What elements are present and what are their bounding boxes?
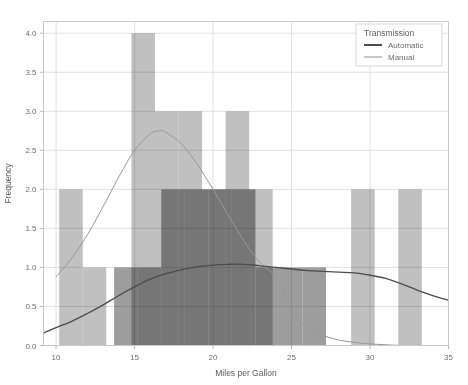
y-tick-label: 3.5 bbox=[25, 68, 37, 77]
y-tick-label: 4.0 bbox=[25, 29, 37, 38]
x-axis-title: Miles per Gallon bbox=[215, 368, 277, 378]
x-tick-label: 30 bbox=[366, 353, 375, 362]
histogram-bar bbox=[351, 189, 375, 345]
y-tick-label: 1.5 bbox=[25, 224, 37, 233]
y-tick-label: 0.5 bbox=[25, 302, 37, 311]
histogram-bar bbox=[208, 189, 232, 345]
x-tick-label: 15 bbox=[130, 353, 139, 362]
y-tick-label: 1.0 bbox=[25, 263, 37, 272]
x-tick-label: 20 bbox=[209, 353, 218, 362]
histogram-bar bbox=[83, 267, 107, 345]
histogram-bar bbox=[232, 189, 256, 345]
y-tick-label: 2.5 bbox=[25, 146, 37, 155]
y-tick-label: 3.0 bbox=[25, 107, 37, 116]
histogram-bar bbox=[303, 267, 327, 345]
histogram-bar bbox=[114, 267, 138, 345]
y-axis-title: Frequency bbox=[3, 163, 13, 204]
histogram-bar bbox=[279, 267, 303, 345]
histogram-bar bbox=[161, 189, 185, 345]
legend-label-automatic[interactable]: Automatic bbox=[388, 41, 424, 50]
x-tick-label: 10 bbox=[52, 353, 61, 362]
histogram-bar bbox=[255, 267, 279, 345]
legend[interactable]: TransmissionAutomaticManual bbox=[356, 24, 442, 66]
x-tick-label: 25 bbox=[287, 353, 296, 362]
y-tick-label: 0.0 bbox=[25, 342, 37, 351]
chart-canvas: 101520253035 0.00.51.01.52.02.53.03.54.0… bbox=[0, 0, 468, 385]
y-tick-label: 2.0 bbox=[25, 185, 37, 194]
legend-label-manual[interactable]: Manual bbox=[388, 53, 414, 62]
x-tick-label: 35 bbox=[444, 353, 453, 362]
legend-title: Transmission bbox=[364, 28, 414, 38]
histogram-bar bbox=[398, 189, 422, 345]
histogram-chart: 101520253035 0.00.51.01.52.02.53.03.54.0… bbox=[0, 0, 468, 385]
